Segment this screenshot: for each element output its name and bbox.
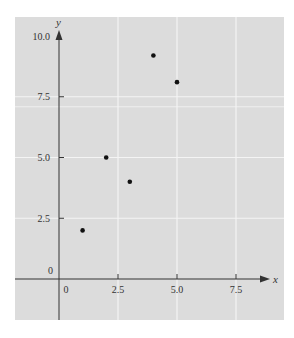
y-tick-label: 7.5 bbox=[38, 91, 51, 102]
scatter-chart: x y 02.55.07.502.55.07.510.0 bbox=[0, 0, 294, 338]
x-tick-label: 5.0 bbox=[171, 284, 184, 295]
data-point bbox=[151, 53, 156, 58]
y-tick-label: 2.5 bbox=[38, 213, 51, 224]
x-tick-label: 7.5 bbox=[230, 284, 243, 295]
data-point bbox=[128, 180, 133, 185]
y-tick-label: 5.0 bbox=[38, 152, 51, 163]
y-axis-label: y bbox=[55, 16, 61, 28]
y-tick-label: 0 bbox=[48, 265, 53, 276]
data-point bbox=[80, 228, 85, 233]
x-axis-label: x bbox=[272, 273, 278, 285]
data-point bbox=[104, 155, 109, 160]
x-tick-label: 0 bbox=[64, 284, 69, 295]
y-tick-label: 10.0 bbox=[33, 31, 51, 42]
data-point bbox=[175, 80, 180, 85]
x-tick-label: 2.5 bbox=[112, 284, 125, 295]
plot-panel bbox=[15, 17, 284, 320]
chart-canvas: x y 02.55.07.502.55.07.510.0 bbox=[0, 0, 294, 338]
